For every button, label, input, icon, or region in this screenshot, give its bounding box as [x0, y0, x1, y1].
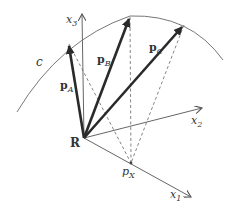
axis-x3	[82, 14, 84, 138]
diagram-canvas: c R x3 x2 x1 pA pB pC pX	[0, 0, 237, 215]
point-px	[130, 162, 133, 165]
label-pA: pA	[60, 79, 74, 94]
label-pX: pX	[122, 165, 135, 180]
label-pC: pC	[149, 41, 163, 56]
vector-pB	[84, 19, 129, 138]
label-x3: x3	[66, 13, 77, 28]
axes	[82, 14, 202, 197]
label-c: c	[36, 55, 43, 69]
axis-x2	[84, 108, 202, 138]
vector-pC	[84, 27, 182, 138]
vector-diagram: c R x3 x2 x1 pA pB pC pX	[0, 0, 237, 215]
label-origin-R: R	[70, 136, 81, 150]
label-x2: x2	[191, 114, 202, 129]
label-pB: pB	[97, 53, 111, 68]
vectors	[69, 19, 182, 138]
